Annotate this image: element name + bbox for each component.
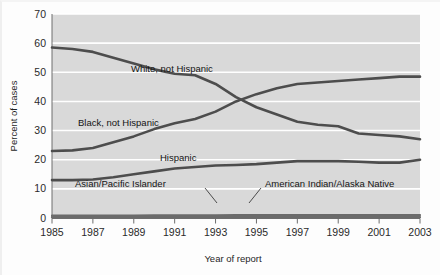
scan-border bbox=[0, 0, 440, 275]
